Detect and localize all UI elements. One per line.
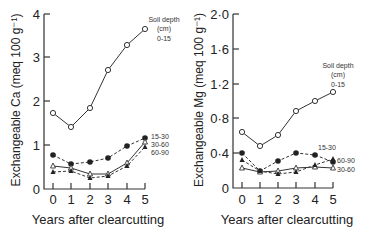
mg-series-0-15: [239, 89, 335, 148]
mg-x-axis-label: Years after clearcutting: [221, 212, 353, 227]
ca-xtick-1: 1: [67, 192, 74, 207]
ca-xtick-5: 5: [141, 192, 148, 207]
ca-xtick-2: 2: [86, 192, 93, 207]
mg-ann-title: Soil depth: [322, 62, 353, 70]
mg-xtick-0: 0: [238, 192, 245, 207]
ca-xtick-0: 0: [49, 192, 56, 207]
ca-series-15-30: [50, 135, 148, 167]
ca-ytick-4: 4: [33, 7, 40, 22]
ca-x-ticks: [53, 183, 145, 189]
mg-x-ticks: [242, 182, 333, 188]
ca-ann-0-15: 0-15: [157, 35, 171, 42]
ca-ann-15-30: 15-30: [151, 133, 169, 140]
mg-y-ticks: [233, 14, 239, 153]
mg-ann-15-30: 15-30: [318, 144, 336, 151]
ca-ytick-2: 2: [33, 94, 40, 109]
ca-xtick-3: 3: [104, 192, 111, 207]
mg-ytick-0.8: 0·8: [210, 111, 229, 126]
ca-ann-unit: (cm): [157, 25, 171, 33]
ca-y-ticks: [44, 14, 50, 145]
figure: Exchangeable Ca (meq 100 g⁻¹) 0 1 2 3 4: [0, 0, 366, 232]
ca-series-30-60: [51, 139, 148, 176]
ca-ytick-3: 3: [33, 50, 40, 65]
ca-ytick-1: 1: [33, 138, 40, 153]
ca-legend-annotations: Soil depth (cm) 0-15 15-30 30-60 60-90: [148, 16, 179, 156]
mg-ytick-0.4: 0·4: [210, 146, 229, 161]
mg-ytick-2.0: 2·0: [210, 7, 229, 22]
mg-ann-unit: (cm): [331, 71, 345, 79]
mg-y-tick-labels: 0 0·4 0·8 1·2 1·6 2·0: [210, 7, 229, 196]
ca-ann-title: Soil depth: [148, 16, 179, 24]
mg-ytick-1.6: 1·6: [210, 42, 229, 57]
ca-y-tick-labels: 0 1 2 3 4: [33, 7, 40, 197]
mg-xtick-1: 1: [256, 192, 263, 207]
ca-ytick-0: 0: [33, 182, 40, 197]
mg-ann-0-15: 0-15: [331, 81, 345, 88]
ca-series-60-90: [51, 144, 148, 180]
mg-legend-annotations: Soil depth (cm) 0-15 15-30 60-90 30-60: [318, 62, 355, 173]
mg-xtick-2: 2: [274, 192, 281, 207]
ca-ann-60-90: 60-90: [151, 149, 169, 156]
mg-ann-60-90: 60-90: [337, 157, 355, 164]
ca-y-axis-label: Exchangeable Ca (meq 100 g⁻¹): [9, 14, 23, 187]
mg-xtick-5: 5: [329, 192, 336, 207]
ca-series-0-15: [50, 26, 147, 129]
mg-chart: Exchangeable Mg (meq 100 g⁻¹) 0 0·4 0·8 …: [192, 7, 355, 227]
mg-ytick-1.2: 1·2: [210, 77, 229, 92]
mg-ytick-0: 0: [222, 181, 229, 196]
ca-xtick-4: 4: [123, 192, 130, 207]
mg-x-tick-labels: 0 1 2 3 4 5: [238, 192, 336, 207]
ca-ann-30-60: 30-60: [151, 141, 169, 148]
ca-chart: Exchangeable Ca (meq 100 g⁻¹) 0 1 2 3 4: [9, 7, 180, 227]
mg-y-axis-label: Exchangeable Mg (meq 100 g⁻¹): [192, 13, 206, 187]
mg-ann-30-60: 30-60: [337, 166, 355, 173]
mg-series-60-90: [240, 156, 336, 176]
ca-x-tick-labels: 0 1 2 3 4 5: [49, 192, 148, 207]
ca-x-axis-label: Years after clearcutting: [32, 212, 164, 227]
mg-xtick-3: 3: [292, 192, 299, 207]
mg-xtick-4: 4: [311, 192, 318, 207]
